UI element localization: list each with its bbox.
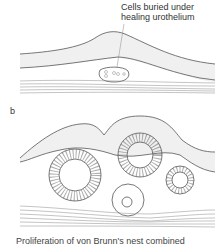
panel-a-illustration <box>20 24 215 93</box>
panel-b-illustration <box>20 116 215 227</box>
diagram-illustration <box>0 0 218 245</box>
